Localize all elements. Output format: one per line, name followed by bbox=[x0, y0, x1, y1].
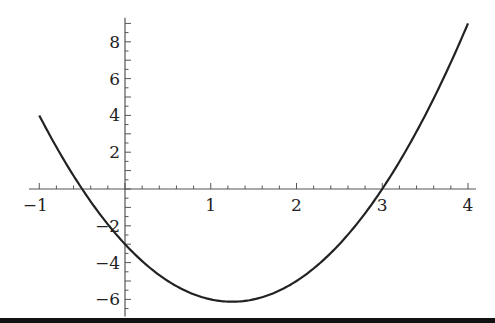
y-tick-label: 8 bbox=[109, 32, 120, 52]
x-tick-label: 3 bbox=[377, 195, 388, 215]
y-tick-label: 2 bbox=[109, 142, 120, 162]
x-tick-label: 2 bbox=[291, 195, 302, 215]
tick-labels: −112348642−2−4−6 bbox=[23, 32, 474, 310]
y-tick-label: 6 bbox=[109, 69, 120, 89]
y-tick-label: 4 bbox=[109, 105, 120, 125]
x-tick-label: −1 bbox=[23, 195, 48, 215]
bottom-border-bar bbox=[0, 318, 495, 323]
y-tick-label: −6 bbox=[95, 289, 120, 309]
y-tick-label: −4 bbox=[95, 253, 120, 273]
function-plot: −112348642−2−4−6 bbox=[0, 0, 495, 323]
x-tick-label: 1 bbox=[205, 195, 216, 215]
x-tick-label: 4 bbox=[463, 195, 474, 215]
